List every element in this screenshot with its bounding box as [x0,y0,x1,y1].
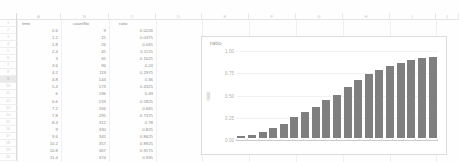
cell-ratio[interactable]: 0.9175 [109,147,156,154]
cell-ratio[interactable]: 0.78 [109,119,156,126]
cell-countno[interactable]: 367 [61,147,109,154]
column-header-g[interactable]: G [296,13,343,20]
cell-time[interactable]: 9.6 [17,133,61,140]
cell-countno[interactable]: 45 [61,48,109,55]
column-header-d[interactable]: D [156,13,202,20]
column-header-i[interactable]: I [390,13,436,20]
column-header-c[interactable]: C [109,13,156,20]
cell-countno[interactable]: 96 [61,62,109,69]
cell-ratio[interactable]: 0.24 [109,62,156,69]
cell-time[interactable]: 1.2 [17,34,61,41]
row-number[interactable]: 3 [0,34,17,41]
cell-time-header[interactable]: time [17,20,61,27]
row-number[interactable]: 4 [0,41,17,48]
cell-ratio[interactable]: 0.4325 [109,83,156,90]
row-number[interactable]: 18 [0,140,17,147]
row-number[interactable]: 8 [0,69,17,76]
column-header-f[interactable]: F [249,13,296,20]
row-number[interactable]: 15 [0,119,17,126]
cell-countno[interactable]: 357 [61,140,109,147]
cell-time[interactable]: 10.2 [17,140,61,147]
cell-countno[interactable]: 374 [61,154,109,161]
cell-time[interactable]: 2.4 [17,48,61,55]
cell-time[interactable]: 7.8 [17,112,61,119]
cell-countno[interactable]: 15 [61,34,109,41]
row-number[interactable]: 11 [0,90,17,97]
cell-countno[interactable]: 144 [61,76,109,83]
row-number[interactable]: 6 [0,55,17,62]
row-number[interactable]: 14 [0,112,17,119]
row-number[interactable]: 19 [0,147,17,154]
row-number[interactable]: 12 [0,98,17,105]
cell-countno[interactable]: 65 [61,55,109,62]
cell-countno[interactable]: 295 [61,112,109,119]
cell-ratio[interactable]: 0.7375 [109,112,156,119]
cell-ratio[interactable]: 0.5825 [109,98,156,105]
cell-time[interactable]: 4.2 [17,69,61,76]
row-number[interactable]: 9 [0,76,17,83]
row-number[interactable]: 17 [0,133,17,140]
cell-time[interactable]: 1.8 [17,41,61,48]
select-all-corner[interactable] [0,13,17,20]
embedded-bar-chart[interactable]: ratio ratio 1.000.750.500.250.00 [201,36,447,155]
cell-countno[interactable]: 330 [61,126,109,133]
cell-time[interactable]: 7.2 [17,105,61,112]
table-row[interactable]: 1 time countNo ratio [0,20,459,27]
row-number[interactable]: 13 [0,105,17,112]
cell-time[interactable]: 4.8 [17,76,61,83]
table-row[interactable]: 20.690.0226 [0,27,459,34]
row-number[interactable]: 7 [0,62,17,69]
row-number[interactable]: 5 [0,48,17,55]
cell-empty[interactable] [156,27,459,34]
cell-ratio[interactable]: 0.0226 [109,27,156,34]
cell-ratio[interactable]: 0.1625 [109,55,156,62]
cell-countno[interactable]: 345 [61,133,109,140]
cell-countno[interactable]: 266 [61,105,109,112]
cell-time[interactable]: 5.4 [17,83,61,90]
cell-ratio[interactable]: 0.8925 [109,140,156,147]
cell-ratio[interactable]: 0.8625 [109,133,156,140]
cell-ratio[interactable]: 0.935 [109,154,156,161]
row-number[interactable]: 10 [0,83,17,90]
cell-countno[interactable]: 233 [61,98,109,105]
cell-countno[interactable]: 173 [61,83,109,90]
cell-ratio[interactable]: 0.2975 [109,69,156,76]
chart-bar [344,87,352,138]
cell-ratio[interactable]: 0.825 [109,126,156,133]
spreadsheet-canvas[interactable]: A B C D E F G H I J 1 time countNo ratio… [0,0,459,162]
cell-time[interactable]: 9 [17,126,61,133]
column-header-h[interactable]: H [343,13,390,20]
cell-ratio[interactable]: 0.36 [109,76,156,83]
cell-time[interactable]: 10.8 [17,147,61,154]
cell-ratio[interactable]: 0.0375 [109,34,156,41]
column-header-j[interactable]: J [436,13,459,20]
cell-time[interactable]: 3.6 [17,62,61,69]
cell-time[interactable]: 6.6 [17,98,61,105]
row-number[interactable]: 1 [0,20,17,27]
cell-time[interactable]: 0.6 [17,27,61,34]
cell-countno[interactable]: 196 [61,90,109,97]
cell-time[interactable]: 8.4 [17,119,61,126]
cell-countno[interactable]: 26 [61,41,109,48]
cell-ratio-header[interactable]: ratio [109,20,156,27]
column-header-e[interactable]: E [202,13,249,20]
row-number[interactable]: 20 [0,154,17,161]
column-header-b[interactable]: B [61,13,109,20]
cell-time[interactable]: 3 [17,55,61,62]
chart-bar [418,58,426,138]
cell-ratio[interactable]: 0.665 [109,105,156,112]
chart-x-tick [258,139,259,141]
cell-time[interactable]: 11.4 [17,154,61,161]
column-header-a[interactable]: A [17,13,61,20]
cell-countno-header[interactable]: countNo [61,20,109,27]
row-number[interactable]: 2 [0,27,17,34]
cell-countno[interactable]: 119 [61,69,109,76]
cell-countno[interactable]: 9 [61,27,109,34]
cell-countno[interactable]: 312 [61,119,109,126]
cell-empty[interactable] [156,20,459,27]
cell-ratio[interactable]: 0.1125 [109,48,156,55]
cell-ratio[interactable]: 0.49 [109,90,156,97]
cell-time[interactable]: 6 [17,90,61,97]
cell-ratio[interactable]: 0.065 [109,41,156,48]
row-number[interactable]: 16 [0,126,17,133]
